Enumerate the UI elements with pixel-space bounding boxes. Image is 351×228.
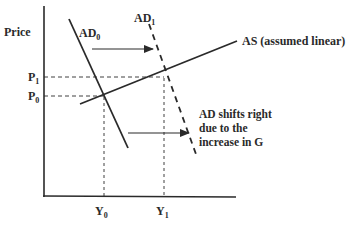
p0-label: P0 [28, 89, 39, 105]
ad1-label: AD1 [134, 11, 155, 27]
p1-label: P1 [28, 70, 39, 86]
as-label: AS (assumed linear) [242, 34, 345, 48]
x-axis [43, 196, 236, 197]
annotation-line-2: due to the [199, 122, 248, 134]
ad1-curve [149, 24, 197, 157]
diagram-canvas: Price AD0 AD1 AS (assumed linear) P1 P0 … [0, 0, 351, 228]
annotation-line-1: AD shifts right [199, 108, 272, 121]
y0-label: Y0 [95, 204, 108, 220]
ad0-label: AD0 [79, 26, 100, 42]
ad-as-diagram: Price AD0 AD1 AS (assumed linear) P1 P0 … [0, 0, 351, 228]
y1-label: Y1 [156, 204, 169, 220]
y-axis-label: Price [4, 25, 31, 39]
annotation-line-3: increase in G [199, 136, 263, 148]
